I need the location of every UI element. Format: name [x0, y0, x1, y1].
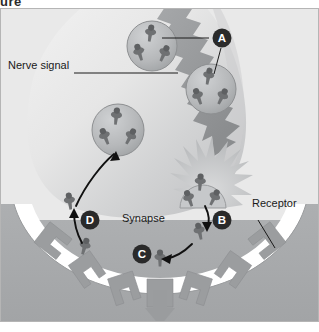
cropped-caption-fragment: ure [0, 0, 60, 8]
svg-text:C: C [138, 248, 146, 260]
marker-A: A [213, 29, 232, 48]
svg-text:D: D [86, 214, 94, 226]
figure-root: ure [0, 0, 319, 332]
label-nerve-signal: Nerve signal [8, 60, 69, 71]
svg-text:B: B [218, 214, 226, 226]
marker-B: B [213, 211, 232, 230]
vesicle-left [92, 104, 144, 156]
marker-C: C [133, 245, 152, 264]
vesicle-right [186, 64, 236, 114]
vesicle-top [127, 21, 177, 71]
label-synapse: Synapse [122, 213, 165, 224]
label-receptor: Receptor [252, 198, 297, 209]
svg-text:A: A [218, 32, 226, 44]
synapse-diagram: A B C D [0, 8, 319, 322]
marker-D: D [81, 211, 100, 230]
